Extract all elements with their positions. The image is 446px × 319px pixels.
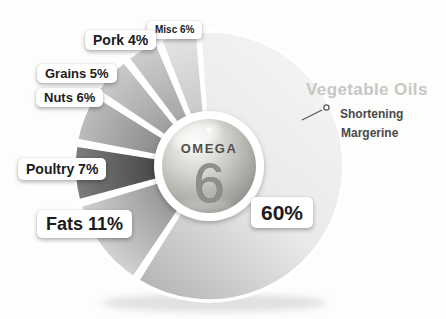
annotation-vegetable-oils-title: Vegetable Oils [306,80,428,100]
sphere-specular-dot [207,128,212,133]
callout-pork: Pork 4% [85,30,156,50]
omega-number-label: 6 [193,151,224,214]
callout-grains: Grains 5% [37,64,117,83]
callout-fats: Fats 11% [37,210,132,238]
leader-pin-dot [324,105,329,110]
callout-poultry: Poultry 7% [18,158,106,180]
annotation-margerine: Margerine [341,126,398,140]
annotation-shortening: Shortening [340,107,403,121]
omega6-pie-infographic: OMEGA 6 Misc 6% Pork 4% Grains 5% Nuts 6… [0,0,446,319]
callout-nuts: Nuts 6% [36,88,103,107]
callout-vegetable-oils-percent: 60% [251,197,313,228]
